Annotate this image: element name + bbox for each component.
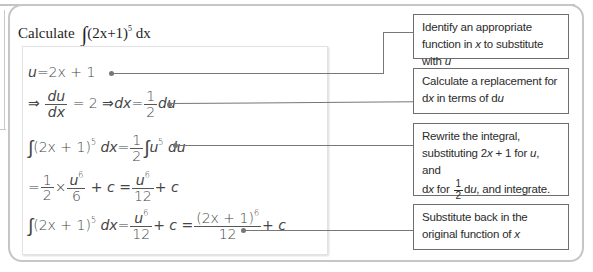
base: (2x + 1) [196,210,254,226]
equals: = [118,139,130,155]
exponent: 5 [91,216,96,225]
step-4-equation: =12×u66 + c =u612+ c [28,172,179,203]
numerator: u6 [130,210,152,227]
du-dx-fraction: dudx [45,89,67,119]
var-u: u [28,64,37,80]
var-u: u [445,55,451,67]
rhs: 2x + 1 [49,64,96,80]
denominator: dx [45,105,67,120]
title-integrand: (2x+1) [87,25,128,41]
denominator: 12 [130,227,152,242]
denominator: 2 [130,149,143,164]
left-frame-stub [4,10,5,130]
var-u: u [497,92,503,104]
left-frame-stub-tick [0,129,6,130]
var-u: u [149,139,158,155]
title-differential: dx [136,25,151,41]
denominator: 2 [41,188,54,203]
connector-3 [177,145,413,146]
exponent: 6 [78,171,83,180]
plus-c: + c = [153,217,193,233]
example-title: Calculate ∫(2x+1)5 dx [18,22,151,47]
dx: dx [100,217,117,233]
numerator: 1 [130,133,143,149]
numerator: 1 [144,89,157,105]
note-line: dx for 12du, and integrate. [422,179,560,201]
step-5-equation: ∫(2x + 1)5 dx=u612+ c =(2x + 1)612+ c [28,210,286,241]
exponent: 5 [91,138,96,147]
numerator: 1 [41,173,54,189]
dx: dx [114,95,131,111]
var-u: u [69,172,78,188]
plus-c: + c [155,179,179,195]
half-fraction: 12 [130,133,143,163]
dx: dx [100,139,117,155]
u6-over-12-fraction: u612 [132,172,154,203]
denominator: 2 [144,105,157,120]
exponent: 6 [143,209,148,218]
equals-two: = 2 [73,95,98,111]
times-symbol: × [55,179,67,195]
equals: = [131,95,143,111]
note-text: substituting 2 [422,147,487,159]
integrand: (2x + 1) [33,139,91,155]
u6-over-6-fraction: u66 [67,172,85,203]
note-text: for [434,183,453,195]
implies-symbol: ⇒ [28,95,40,111]
half-fraction: 12 [41,173,54,203]
half-fraction: 12 [454,179,463,201]
step-1-equation: u=2x + 1 [28,64,95,80]
numerator: 1 [454,179,463,191]
plus-c: + c = [91,179,131,195]
note-text: + 1 for [493,147,531,159]
equals: = [118,217,130,233]
note-text: , and integrate. [476,183,550,195]
note-replace-dx: Calculate a replacement for dx in terms … [413,68,569,114]
u6-over-12-fraction: u612 [130,210,152,241]
exponent: 5 [158,138,163,147]
exponent: 6 [254,209,259,218]
numerator: (2x + 1)6 [194,210,261,227]
numerator: du [45,89,67,105]
var-x: x [514,228,520,240]
connector-1-horizontal [113,73,384,74]
note-text: in terms of d [434,92,498,104]
step-2-equation: ⇒ dudx = 2 ⇒dx=12du [28,89,176,119]
note-rewrite-integrate: Rewrite the integral, substituting 2x + … [413,123,569,196]
connector-4 [245,230,413,231]
numerator: u6 [67,172,85,189]
back-substituted-fraction: (2x + 1)612 [194,210,261,241]
implies-symbol: ⇒ [102,95,114,111]
note-substitute-back: Substitute back in the original function… [413,204,569,250]
note-text: Substitute back in the original function… [422,211,528,240]
equals: = [28,179,40,195]
numerator: u6 [132,172,154,189]
equals: = [37,64,49,80]
denominator: 2 [454,191,463,202]
var-u: u [134,210,143,226]
step-3-equation: ∫(2x + 1)5 dx=12∫u5 du [28,133,186,163]
title-prefix: Calculate [18,25,75,41]
connector-1-vertical [383,32,384,74]
denominator: 6 [67,189,85,204]
note-identify-substitution: Identify an appropriate function in x to… [413,14,569,59]
denominator: 12 [132,189,154,204]
title-exponent: 5 [128,24,132,33]
denominator: 12 [194,227,261,242]
note-line: Rewrite the integral, [422,128,560,145]
exponent: 6 [145,171,150,180]
half-fraction: 12 [144,89,157,119]
integrand: (2x + 1) [33,217,91,233]
var-u: u [136,172,145,188]
note-line: substituting 2x + 1 for u, and [422,145,560,179]
connector-1-top [383,32,413,33]
